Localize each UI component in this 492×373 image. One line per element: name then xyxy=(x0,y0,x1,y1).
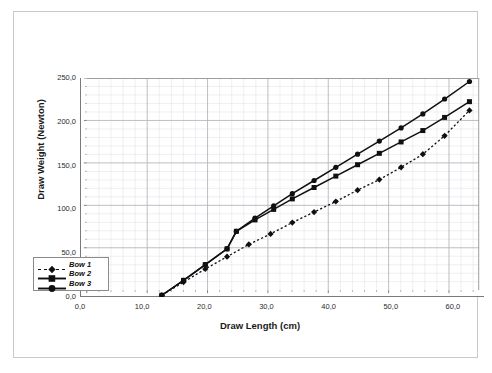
chart-legend: Bow 1 Bow 2 Bow 3 xyxy=(33,257,109,291)
data-point xyxy=(377,151,382,156)
data-point xyxy=(355,152,360,157)
x-tick-label: 20,0 xyxy=(184,302,224,311)
y-axis-tick-labels: 0,050,0100,0150,0200,0250,0 xyxy=(32,12,76,373)
data-point xyxy=(289,219,295,225)
data-point xyxy=(420,128,425,133)
legend-item: Bow 3 xyxy=(37,279,105,288)
data-point xyxy=(311,178,316,183)
legend-item: Bow 2 xyxy=(37,269,105,278)
data-point xyxy=(203,262,208,267)
chart-page: Draw Weight (Newton) 0,050,0100,0150,020… xyxy=(0,0,492,373)
legend-item: Bow 1 xyxy=(37,260,105,269)
data-point xyxy=(467,79,472,84)
legend-key-bow-2 xyxy=(37,269,67,278)
data-point xyxy=(246,241,252,247)
data-point xyxy=(420,111,425,116)
x-tick-label: 30,0 xyxy=(246,302,286,311)
data-point xyxy=(290,196,295,201)
y-tick-label: 250,0 xyxy=(57,74,76,82)
data-point xyxy=(224,254,230,260)
data-point xyxy=(376,177,382,183)
x-tick-label: 60,0 xyxy=(433,302,473,311)
data-point xyxy=(290,191,295,196)
data-series-layer xyxy=(81,78,485,297)
legend-label-bow-2: Bow 2 xyxy=(67,269,91,278)
x-tick-label: 10,0 xyxy=(122,302,162,311)
y-tick-label: 0,0 xyxy=(66,293,76,301)
data-point xyxy=(333,198,339,204)
y-tick-label: 150,0 xyxy=(57,162,76,170)
data-point xyxy=(311,209,317,215)
y-tick-label: 50,0 xyxy=(61,249,76,257)
legend-label-bow-3: Bow 3 xyxy=(67,279,91,288)
legend-key-bow-1 xyxy=(37,260,67,269)
series-line-bow-1 xyxy=(162,110,470,295)
y-tick-label: 100,0 xyxy=(57,205,76,213)
data-point xyxy=(271,203,276,208)
data-point xyxy=(354,187,360,193)
x-tick-label: 40,0 xyxy=(309,302,349,311)
x-tick-label: 50,0 xyxy=(371,302,411,311)
x-axis-title: Draw Length (cm) xyxy=(14,320,492,331)
data-point xyxy=(398,125,403,130)
data-point xyxy=(312,185,317,190)
y-tick-label: 200,0 xyxy=(57,118,76,126)
data-point xyxy=(181,278,186,283)
data-point xyxy=(333,174,338,179)
data-point xyxy=(333,165,338,170)
data-point xyxy=(267,231,273,237)
chart-frame: Draw Weight (Newton) 0,050,0100,0150,020… xyxy=(13,11,478,358)
plot-area xyxy=(80,78,484,297)
data-point xyxy=(399,139,404,144)
data-point xyxy=(467,99,472,104)
data-point xyxy=(442,115,447,120)
x-tick-label: 0,0 xyxy=(60,302,100,311)
legend-label-bow-1: Bow 1 xyxy=(67,260,91,269)
x-axis-tick-labels: 0,010,020,030,040,050,060,0 xyxy=(14,302,492,314)
data-point xyxy=(252,216,257,221)
data-point xyxy=(224,246,229,251)
data-point xyxy=(377,138,382,143)
data-point xyxy=(355,162,360,167)
legend-key-bow-3 xyxy=(37,279,67,288)
data-point xyxy=(398,164,404,170)
data-point xyxy=(442,96,447,101)
data-point xyxy=(234,229,239,234)
